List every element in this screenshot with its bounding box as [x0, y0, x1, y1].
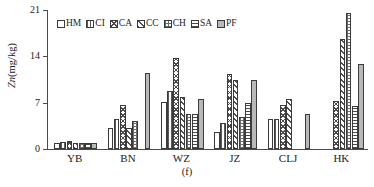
bar-jz-cc	[233, 80, 239, 149]
bar-hk-sa	[352, 106, 358, 149]
bar-jz-ca	[227, 74, 233, 149]
y-axis-title-italic: Zn	[6, 77, 17, 88]
bar-wz-ch	[186, 114, 192, 149]
bar-group-yb	[54, 10, 97, 149]
bar-clj-pf	[305, 114, 311, 149]
bar-wz-ca	[173, 58, 179, 149]
x-category-label-clj: CLJ	[279, 152, 297, 164]
bar-clj-hm	[268, 119, 274, 149]
x-category-label-hk: HK	[333, 152, 349, 164]
figure-subcaption: (f)	[0, 166, 374, 177]
bar-yb-ch	[79, 143, 85, 149]
bar-group-hk	[321, 10, 364, 149]
bar-yb-hm	[54, 143, 60, 149]
bar-bn-ca	[120, 105, 126, 149]
bar-group-clj	[268, 10, 311, 149]
bar-bn-ch	[132, 121, 138, 149]
y-tick-label: 0	[0, 144, 40, 154]
plot-area	[48, 10, 368, 149]
bar-wz-ci	[167, 91, 173, 149]
bar-yb-ca	[67, 141, 73, 149]
bar-yb-pf	[91, 143, 97, 149]
bar-yb-sa	[85, 143, 91, 149]
y-axis-title: Zn(mg/kg)	[6, 26, 17, 106]
bar-bn-cc	[126, 128, 132, 149]
x-category-label-wz: WZ	[173, 152, 190, 164]
bar-bn-pf	[145, 73, 151, 149]
x-axis-line	[47, 149, 368, 150]
y-tick-mark	[43, 103, 47, 104]
bar-wz-pf	[198, 99, 204, 149]
bar-clj-ci	[274, 119, 280, 149]
bar-hk-pf	[358, 64, 364, 149]
x-category-label-yb: YB	[67, 152, 82, 164]
bar-yb-cc	[73, 143, 79, 149]
bar-group-bn	[108, 10, 151, 149]
bar-clj-cc	[286, 99, 292, 149]
bar-hk-ca	[333, 101, 339, 149]
bar-group-wz	[161, 10, 204, 149]
y-tick-mark	[43, 10, 47, 11]
y-tick-label: 7	[0, 98, 40, 108]
bar-bn-hm	[108, 128, 114, 149]
y-tick-label: 14	[0, 51, 40, 61]
bar-jz-ci	[220, 123, 226, 149]
y-tick-mark	[43, 149, 47, 150]
bar-jz-ch	[239, 117, 245, 149]
bar-wz-cc	[180, 97, 186, 149]
bar-jz-sa	[245, 103, 251, 149]
x-category-label-jz: JZ	[229, 152, 240, 164]
bar-jz-hm	[214, 132, 220, 149]
bar-hk-ch	[346, 13, 352, 149]
figure-zn-bar-chart: Zn(mg/kg) 071421 HMCICACCCHSAPF YBBNWZJZ…	[0, 0, 374, 187]
bar-yb-ci	[60, 142, 66, 149]
bar-wz-hm	[161, 102, 167, 149]
x-category-label-bn: BN	[120, 152, 135, 164]
y-tick-mark	[43, 56, 47, 57]
y-tick-label: 21	[0, 5, 40, 15]
bar-hk-cc	[340, 39, 346, 149]
bar-jz-pf	[251, 80, 257, 150]
bar-wz-sa	[192, 114, 198, 149]
bar-bn-ci	[114, 119, 120, 149]
bar-clj-ca	[280, 105, 286, 149]
bar-group-jz	[214, 10, 257, 149]
